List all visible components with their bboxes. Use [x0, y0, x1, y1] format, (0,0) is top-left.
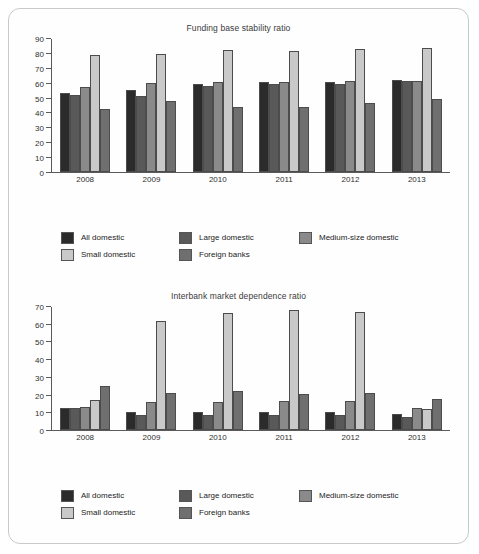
bar-group: [193, 39, 243, 172]
legend-label: Small domestic: [81, 508, 135, 517]
bar-group: [60, 39, 110, 172]
legend-item: Foreign banks: [179, 249, 299, 261]
figure-frame: Funding base stability ratio 01020304050…: [8, 8, 469, 544]
legend-label: Foreign banks: [199, 508, 250, 517]
legend-item: Large domestic: [179, 232, 299, 244]
bar: [355, 312, 365, 430]
bar: [100, 386, 110, 430]
y-axis-tick-label: 40: [35, 356, 44, 365]
y-axis-tick-label: 40: [35, 109, 44, 118]
x-axis-tick-label: 2013: [386, 433, 448, 442]
bar-group: [325, 307, 375, 430]
bar: [146, 83, 156, 172]
bar: [156, 321, 166, 430]
legend-swatch-icon: [61, 249, 74, 261]
legend-label: All domestic: [81, 233, 124, 242]
bar: [269, 84, 279, 172]
bar: [166, 101, 176, 172]
y-axis-tick-label: 10: [35, 154, 44, 163]
bar: [279, 82, 289, 172]
bar: [136, 96, 146, 172]
bar-group: [259, 39, 309, 172]
bar: [233, 391, 243, 430]
bar: [279, 401, 289, 430]
bar: [203, 86, 213, 172]
bar: [146, 402, 156, 430]
y-axis-tick-label: 90: [35, 35, 44, 44]
plot-area-bottom: 010203040506070 200820092010201120122013: [9, 307, 468, 449]
legend-swatch-icon: [179, 249, 192, 261]
y-axis-tick-label: 10: [35, 409, 44, 418]
x-axis-tick-label: 2011: [253, 175, 315, 184]
legend-label: Large domestic: [199, 491, 254, 500]
bar: [259, 82, 269, 172]
y-axis-tick-label: 60: [35, 79, 44, 88]
y-axis-tick-label: 70: [35, 64, 44, 73]
bar: [345, 81, 355, 172]
bar: [126, 412, 136, 430]
bar: [365, 103, 375, 172]
y-axis-tick-label: 0: [40, 169, 44, 178]
bar: [193, 84, 203, 172]
bar: [422, 48, 432, 172]
y-axis-tick: [46, 53, 51, 54]
legend-label: Foreign banks: [199, 250, 250, 259]
legend-row: All domesticLarge domesticMedium-size do…: [61, 229, 454, 246]
legend-item: Large domestic: [179, 490, 299, 502]
y-axis-tick-label: 60: [35, 320, 44, 329]
chart-panel-funding-base-stability: Funding base stability ratio 01020304050…: [9, 23, 468, 285]
bar: [325, 82, 335, 172]
legend-top: All domesticLarge domesticMedium-size do…: [61, 229, 454, 263]
bar: [213, 82, 223, 172]
legend-swatch-icon: [179, 507, 192, 519]
y-axis-tick-label: 70: [35, 303, 44, 312]
legend-label: Medium-size domestic: [319, 233, 399, 242]
bar-group: [392, 39, 442, 172]
bar: [70, 408, 80, 430]
legend-label: Small domestic: [81, 250, 135, 259]
legend-item: All domestic: [61, 232, 179, 244]
legend-label: All domestic: [81, 491, 124, 500]
bar: [70, 95, 80, 172]
chart-panel-interbank-dependence: Interbank market dependence ratio 010203…: [9, 291, 468, 541]
y-axis-tick: [46, 38, 51, 39]
legend-swatch-icon: [179, 232, 192, 244]
legend-row: Small domesticForeign banks: [61, 246, 454, 263]
bar-group: [259, 307, 309, 430]
legend-swatch-icon: [61, 232, 74, 244]
bar: [269, 415, 279, 430]
legend-item: Medium-size domestic: [299, 490, 399, 502]
y-axis-tick-label: 50: [35, 94, 44, 103]
bar: [203, 415, 213, 430]
bar: [126, 90, 136, 172]
bar: [213, 402, 223, 430]
y-axis-tick: [46, 395, 51, 396]
y-axis-tick: [46, 83, 51, 84]
legend-label: Medium-size domestic: [319, 491, 399, 500]
legend-swatch-icon: [299, 232, 312, 244]
y-axis-tick-label: 20: [35, 391, 44, 400]
bar: [156, 54, 166, 172]
y-axis-tick: [46, 68, 51, 69]
bar-group: [126, 39, 176, 172]
bar: [432, 99, 442, 172]
legend-item: All domestic: [61, 490, 179, 502]
x-axis-labels-bottom: 200820092010201120122013: [52, 433, 450, 449]
bar: [335, 84, 345, 172]
y-axis-tick: [46, 157, 51, 158]
y-axis-tick-label: 20: [35, 139, 44, 148]
bar: [289, 310, 299, 430]
legend-swatch-icon: [61, 490, 74, 502]
chart-title-bottom: Interbank market dependence ratio: [9, 291, 468, 301]
bar-group: [60, 307, 110, 430]
x-axis-tick-label: 2009: [120, 175, 182, 184]
y-axis-tick-label: 0: [40, 427, 44, 436]
legend-item: Foreign banks: [179, 507, 299, 519]
bar: [432, 399, 442, 430]
bar-groups-bottom: [52, 307, 450, 430]
bar: [299, 107, 309, 172]
bar: [325, 412, 335, 430]
bar: [355, 49, 365, 172]
x-axis-tick-label: 2012: [319, 175, 381, 184]
bar: [422, 409, 432, 430]
